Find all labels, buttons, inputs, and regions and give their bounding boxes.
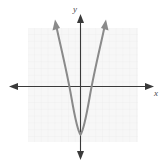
- x-axis-arrow-right: [145, 83, 154, 90]
- graph-figure: y x: [0, 0, 163, 164]
- y-axis-arrow-up: [77, 14, 84, 23]
- x-axis-arrow-left: [9, 83, 18, 90]
- y-axis-label: y: [72, 4, 77, 14]
- coordinate-plane-svg: y x: [0, 0, 163, 164]
- grid-background: [28, 28, 138, 142]
- x-axis-label: x: [153, 88, 158, 98]
- y-axis-arrow-down: [77, 151, 84, 160]
